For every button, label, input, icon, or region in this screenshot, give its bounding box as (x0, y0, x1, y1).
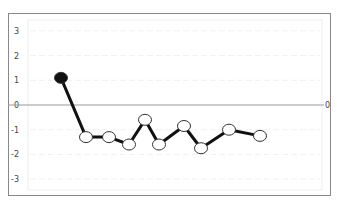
data-point-marker (55, 72, 68, 83)
data-point-marker (178, 120, 191, 131)
y-tick-label: 2 (14, 52, 19, 61)
data-point-marker (139, 114, 152, 125)
data-point-marker (254, 130, 267, 141)
data-point-marker (80, 132, 93, 143)
y-tick-label: 3 (14, 27, 19, 36)
data-point-marker (153, 139, 166, 150)
data-point-marker (123, 139, 136, 150)
y-axis-ticks: 3210-1-2-3 (11, 27, 19, 184)
y-tick-label: -1 (11, 126, 19, 135)
data-markers (55, 72, 267, 153)
y-tick-label: 1 (14, 76, 19, 85)
y-tick-label: -2 (11, 150, 19, 159)
data-point-marker (103, 132, 116, 143)
data-point-marker (195, 143, 208, 154)
data-point-marker (223, 124, 236, 135)
zero-line-label: 0 (325, 101, 330, 110)
line-chart: 3210-1-2-3 0 (0, 0, 337, 209)
y-tick-label: -3 (11, 175, 19, 184)
